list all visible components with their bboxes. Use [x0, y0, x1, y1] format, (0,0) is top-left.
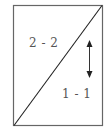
region-label-upper-left: 2 - 2	[29, 37, 58, 49]
section-diagram: 2 - 2 1 - 1	[0, 0, 111, 134]
diagonal-line	[14, 6, 102, 126]
region-label-lower-right: 1 - 1	[62, 88, 91, 100]
double-headed-vertical-arrow-icon	[87, 40, 93, 78]
diagram-canvas	[0, 0, 111, 134]
